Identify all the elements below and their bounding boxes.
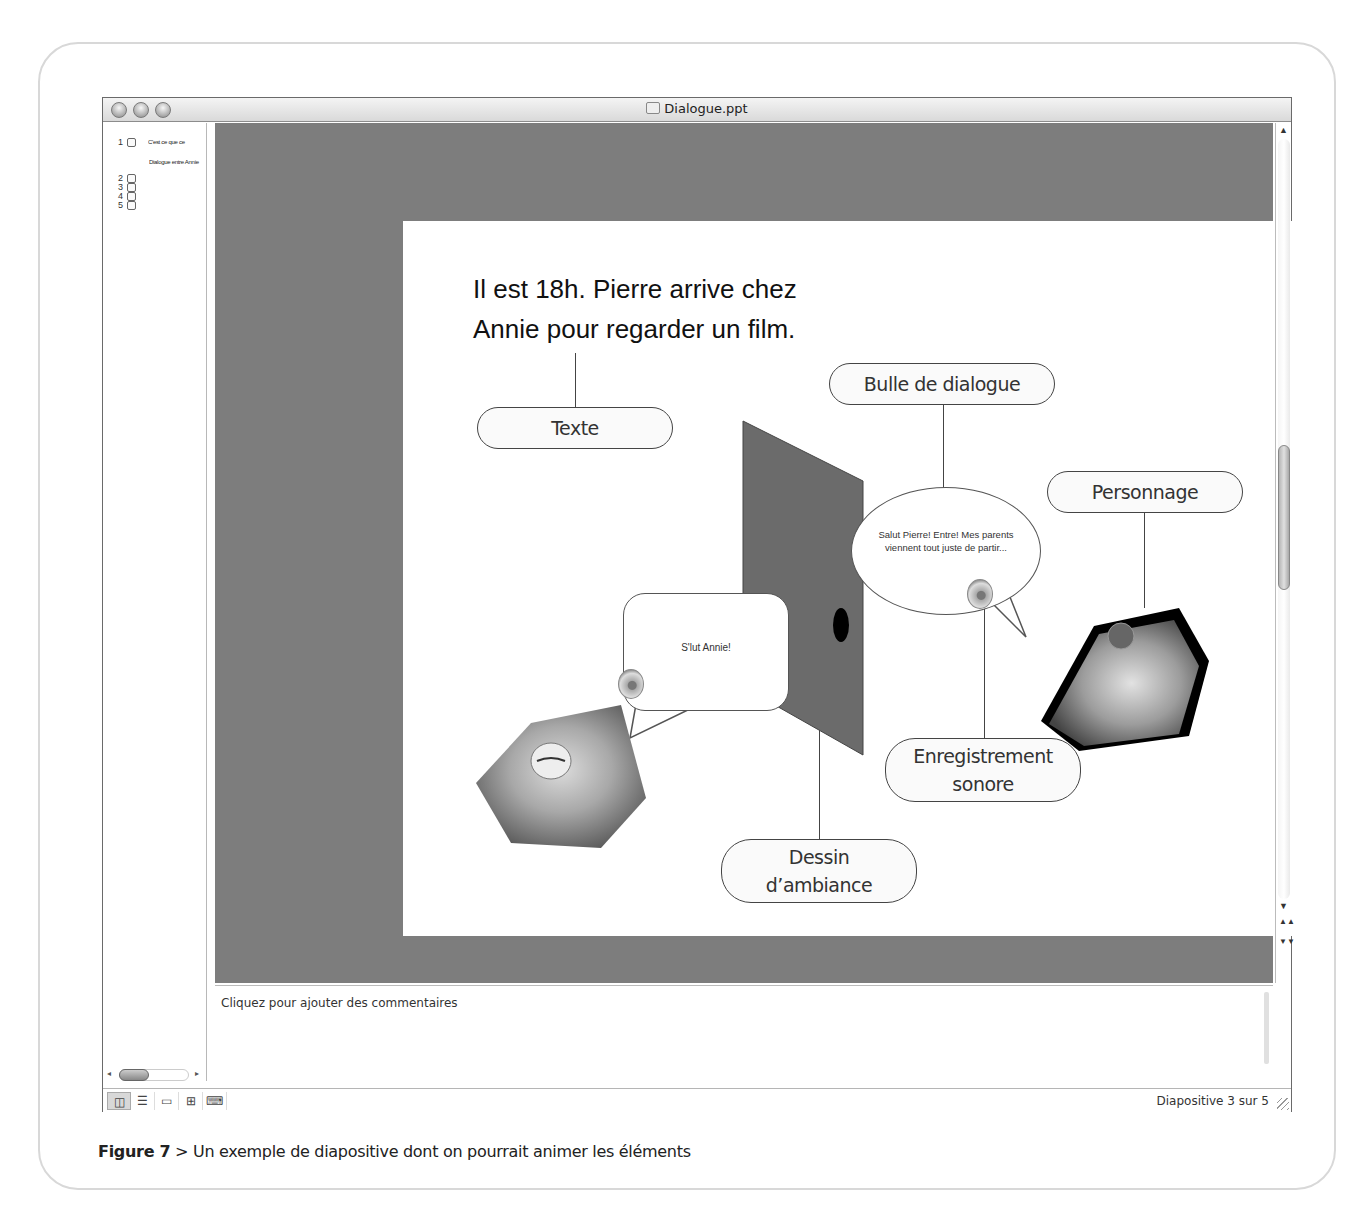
normal-view-button[interactable]: ◫ <box>107 1092 131 1110</box>
slide-stage: Il est 18h. Pierre arrive chez Annie pou… <box>215 123 1273 983</box>
previous-slide-icon[interactable]: ▲▲ <box>1279 918 1295 926</box>
callout-bulle-de-dialogue[interactable]: Bulle de dialogue <box>829 363 1055 405</box>
notes-pane[interactable]: Cliquez pour ajouter des commentaires <box>215 985 1273 1085</box>
callout-dessin-line-2: d’ambiance <box>766 871 872 899</box>
slide-canvas[interactable]: Il est 18h. Pierre arrive chez Annie pou… <box>403 221 1309 936</box>
speaker-icon[interactable] <box>967 579 993 609</box>
scroll-left-arrow-icon[interactable]: ◂ <box>107 1069 111 1078</box>
notes-scrollbar[interactable] <box>1264 992 1269 1064</box>
caption-text: Un exemple de diapositive dont on pourra… <box>193 1142 691 1161</box>
figure-caption: Figure 7 > Un exemple de diapositive don… <box>98 1142 691 1161</box>
slide-number: 5 <box>113 200 123 210</box>
outline-view-button[interactable]: ☰ <box>131 1092 155 1110</box>
resize-grip-icon[interactable] <box>1277 1098 1289 1110</box>
texte-connector-line <box>575 353 576 408</box>
frog-character-annie[interactable] <box>1039 606 1219 756</box>
callout-texte[interactable]: Texte <box>477 407 673 449</box>
scroll-thumb[interactable] <box>1278 445 1290 590</box>
figure-label: Figure 7 <box>98 1142 170 1161</box>
slide-outline-pane: 1 C'est ce que ce Dialogue entre Annie 2… <box>103 123 207 1081</box>
personnage-connector-line <box>1144 513 1145 608</box>
caption-separator: > <box>170 1142 193 1161</box>
vertical-scrollbar[interactable]: ▲ ▼ ▲▲ ▼▼ <box>1275 123 1291 983</box>
scroll-thumb[interactable] <box>119 1069 149 1081</box>
view-switcher: ◫ ☰ ▭ ⊞ ⌨ <box>107 1092 227 1110</box>
slide-outline-text: C'est ce que ce <box>148 139 206 145</box>
status-bar: ◫ ☰ ▭ ⊞ ⌨ Diapositive 3 sur 5 <box>103 1088 1291 1112</box>
slide-icon <box>127 138 136 147</box>
document-icon <box>646 102 660 114</box>
slide-outline-subtext: Dialogue entre Annie <box>149 159 207 165</box>
callout-dessin-line-1: Dessin <box>789 843 849 871</box>
slide-number: 1 <box>113 137 123 147</box>
slideshow-button[interactable]: ⌨ <box>203 1092 227 1110</box>
slide-title-line-1: Il est 18h. Pierre arrive chez <box>473 269 797 309</box>
window-title-text: Dialogue.ppt <box>664 101 747 116</box>
slide-sorter-view-button[interactable]: ⊞ <box>179 1092 203 1110</box>
slide-icon <box>127 201 136 210</box>
callout-bulle-label: Bulle de dialogue <box>864 370 1020 398</box>
speech-bubble-annie[interactable]: Salut Pierre! Entre! Mes parents viennen… <box>851 487 1041 615</box>
callout-enregistrement-line-2: sonore <box>952 770 1013 798</box>
bubble-pierre-text: S'lut Annie! <box>681 642 731 653</box>
bubble-annie-line-2: viennent tout juste de partir... <box>878 541 1013 554</box>
slide-counter: Diapositive 3 sur 5 <box>1157 1094 1270 1108</box>
callout-texte-label: Texte <box>551 414 599 442</box>
callout-personnage-label: Personnage <box>1092 478 1198 506</box>
outline-slide-1[interactable]: 1 C'est ce que ce <box>113 137 206 147</box>
title-bar[interactable]: Dialogue.ppt <box>103 98 1291 122</box>
bulle-connector-line <box>943 405 944 489</box>
speech-bubble-pierre[interactable]: S'lut Annie! <box>623 593 789 711</box>
callout-personnage[interactable]: Personnage <box>1047 471 1243 513</box>
speaker-icon[interactable] <box>618 669 644 699</box>
slide-title-line-2: Annie pour regarder un film. <box>473 309 797 349</box>
callout-dessin-d-ambiance[interactable]: Dessin d’ambiance <box>721 839 917 903</box>
next-slide-icon[interactable]: ▼▼ <box>1279 938 1295 946</box>
slide-view-button[interactable]: ▭ <box>155 1092 179 1110</box>
outline-slide-5[interactable]: 5 <box>113 200 136 210</box>
callout-enregistrement-sonore[interactable]: Enregistrement sonore <box>885 738 1081 802</box>
scroll-up-arrow-icon[interactable]: ▲ <box>1279 125 1288 135</box>
scroll-down-arrow-icon[interactable]: ▼ <box>1279 901 1288 911</box>
frog-character-pierre[interactable] <box>471 703 651 853</box>
notes-placeholder[interactable]: Cliquez pour ajouter des commentaires <box>221 996 458 1010</box>
callout-enregistrement-line-1: Enregistrement <box>913 742 1053 770</box>
window-title: Dialogue.ppt <box>103 101 1291 116</box>
slide-title-text[interactable]: Il est 18h. Pierre arrive chez Annie pou… <box>473 269 797 349</box>
bubble-annie-line-1: Salut Pierre! Entre! Mes parents <box>878 528 1013 541</box>
powerpoint-window: Dialogue.ppt 1 C'est ce que ce Dialogue … <box>102 97 1292 1112</box>
sidebar-horizontal-scrollbar[interactable]: ◂ ▸ <box>107 1069 203 1081</box>
scroll-right-arrow-icon[interactable]: ▸ <box>195 1069 199 1078</box>
